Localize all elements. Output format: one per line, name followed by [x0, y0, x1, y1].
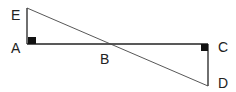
point-label-e: E — [11, 8, 20, 22]
right-angle-marker-c — [201, 44, 208, 51]
point-label-c: C — [218, 40, 228, 54]
point-label-a: A — [11, 41, 20, 55]
right-angle-marker-a — [28, 37, 36, 44]
geometry-diagram: E A B C D — [0, 0, 236, 92]
triangle-figure — [0, 0, 236, 92]
point-label-b: B — [100, 52, 109, 66]
segment-ed — [27, 8, 208, 86]
point-label-d: D — [218, 76, 228, 90]
